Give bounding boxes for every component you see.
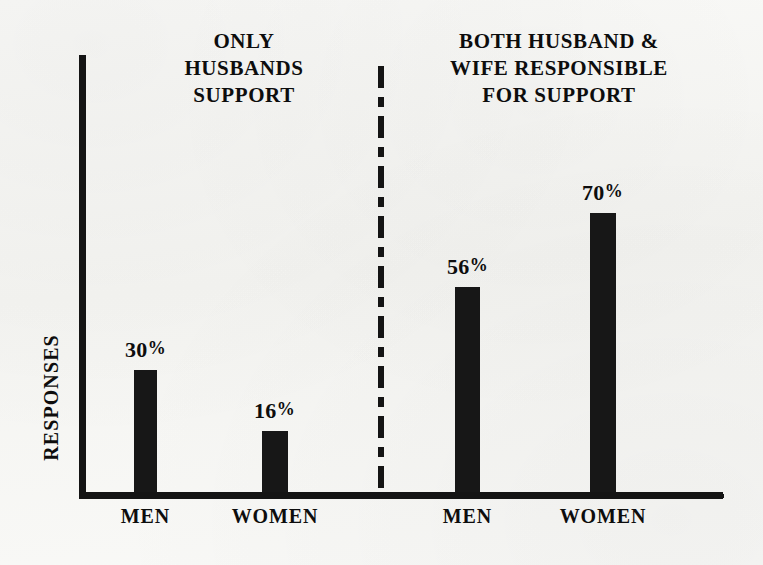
bar-women-both-responsible (590, 213, 616, 492)
bar-value-women-both-responsible: 70% (562, 180, 643, 206)
bar-women-only-husbands (262, 431, 288, 492)
category-label-women-left: WOMEN (220, 505, 330, 528)
x-axis-line (79, 492, 723, 499)
group-divider-dash-dot-line (378, 66, 384, 496)
x-axis-tail (700, 494, 724, 498)
category-label-men-left: MEN (105, 505, 186, 528)
bar-value-women-only-husbands: 16% (234, 398, 315, 424)
bar-men-only-husbands (134, 370, 157, 492)
group-heading-only-husbands-support: ONLY HUSBANDS SUPPORT (128, 28, 360, 109)
percent-sign: % (148, 338, 166, 358)
category-label-women-right: WOMEN (548, 505, 658, 528)
percent-sign: % (277, 399, 295, 419)
percent-sign: % (605, 181, 623, 201)
category-label-men-right: MEN (427, 505, 508, 528)
y-axis-label: RESPONSES (40, 308, 63, 488)
bar-value-men-both-responsible: 56% (427, 254, 508, 280)
bar-men-both-responsible (455, 287, 480, 492)
bar-value-number: 56 (447, 254, 470, 279)
bar-chart: ONLY HUSBANDS SUPPORT BOTH HUSBAND & WIF… (0, 0, 763, 565)
group-heading-both-husband-wife-responsible: BOTH HUSBAND & WIFE RESPONSIBLE FOR SUPP… (404, 28, 714, 109)
percent-sign: % (470, 255, 488, 275)
bar-value-number: 70 (582, 180, 605, 205)
y-axis-line (79, 55, 86, 499)
bar-value-number: 30 (125, 337, 148, 362)
bar-value-men-only-husbands: 30% (105, 337, 186, 363)
bar-value-number: 16 (254, 398, 277, 423)
